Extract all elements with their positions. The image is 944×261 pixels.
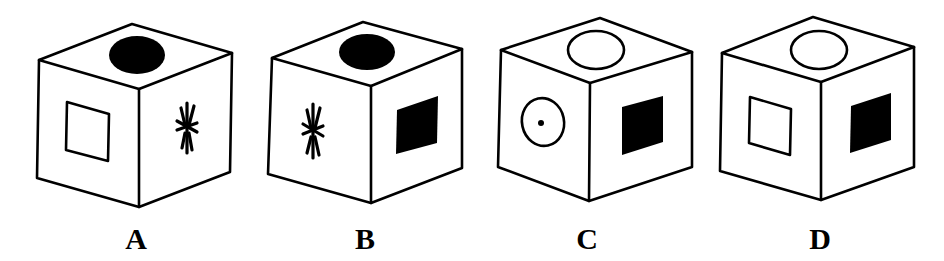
cube-b[interactable] [268, 22, 462, 203]
cube-b-top-filled-circle-icon [339, 34, 395, 70]
option-label-b: B [345, 224, 385, 254]
cube-a-top-filled-circle-icon [109, 36, 165, 74]
cube-options-figure: A B C D [0, 0, 944, 261]
cube-c-left-dot-icon [538, 120, 544, 126]
cube-a[interactable] [37, 24, 232, 207]
cube-c[interactable] [498, 18, 692, 201]
option-label-c: C [567, 224, 607, 254]
option-label-a: A [116, 224, 156, 254]
option-label-d: D [800, 224, 840, 254]
cube-d[interactable] [720, 17, 914, 200]
